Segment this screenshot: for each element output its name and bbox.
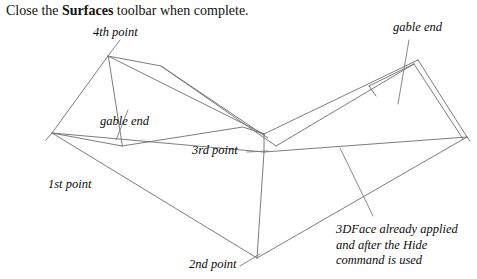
leader-4th-point	[108, 40, 120, 56]
left-gable-triangle	[52, 56, 122, 146]
left-wall-lower-stub	[46, 133, 52, 140]
right-wall-top-edge	[264, 137, 467, 152]
note-line-2: and after the Hide	[336, 238, 458, 254]
right-gable-slope	[418, 60, 467, 137]
label-3rd-point: 3rd point	[192, 143, 238, 158]
label-1st-point: 1st point	[48, 177, 91, 192]
page-canvas: Close the Surfaces toolbar when complete…	[0, 0, 477, 279]
leader-2nd-point	[240, 254, 260, 266]
label-gable-end-right: gable end	[393, 20, 442, 35]
right-gable-slope-inner	[414, 64, 463, 139]
label-2nd-point: 2nd point	[189, 257, 237, 272]
note-line-3: command is used	[336, 253, 458, 269]
leader-gable-end-right	[398, 40, 409, 104]
wall-corner-vertical-second-point	[257, 152, 264, 258]
right-ridge-sliver-edge	[369, 64, 414, 86]
leader-note	[340, 148, 373, 216]
label-4th-point: 4th point	[93, 25, 138, 40]
right-wing-ridge	[264, 60, 418, 134]
note-line-1: 3DFace already applied	[336, 222, 458, 238]
note-3dface: 3DFace already applied and after the Hid…	[336, 222, 458, 269]
label-gable-end-left: gable end	[100, 114, 149, 129]
right-wall-bottom-edge	[467, 137, 470, 141]
right-wing-ridge-offset	[276, 64, 414, 146]
left-wing-back-eave	[161, 66, 276, 146]
